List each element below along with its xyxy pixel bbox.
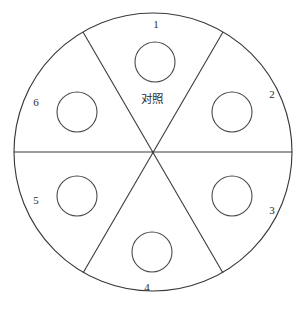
sector-3-label: 3 <box>269 204 275 216</box>
sector-plot-diagram: 1 2 3 4 5 6 对照 <box>0 0 301 310</box>
sector-5-label: 5 <box>33 194 39 206</box>
control-group-label: 对照 <box>141 92 164 106</box>
plot-canvas: 1 2 3 4 5 6 对照 <box>0 0 301 310</box>
sector-2-label: 2 <box>269 88 275 100</box>
sector-1-label: 1 <box>153 18 159 30</box>
sector-6-label: 6 <box>33 96 39 108</box>
sector-4-label: 4 <box>144 281 150 293</box>
